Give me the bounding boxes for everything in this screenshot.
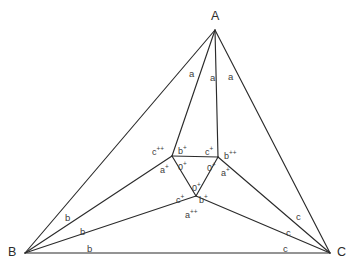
cevian-C-to-bottom-inner	[196, 196, 330, 253]
inner-label-c-plus-upper-right: c+	[205, 146, 213, 157]
inner-label-b-plus-lower-right: b+	[199, 194, 208, 205]
inner-label-b-plus-lower-right-superscript: +	[204, 193, 208, 200]
side-label-b-1: b	[65, 213, 70, 223]
side-label-a-3: a	[228, 72, 233, 82]
inner-label-a-plus-right: a+	[221, 167, 230, 178]
inner-label-a-plus-left-superscript: +	[165, 163, 169, 170]
vertex-label-a: A	[211, 10, 219, 23]
side-AC	[215, 30, 330, 253]
inner-label-zero-plus-upper-left-superscript: +	[183, 160, 187, 167]
side-label-c-2: c	[286, 228, 291, 238]
inner-label-zero-plus-lower-superscript: +	[197, 181, 201, 188]
vertex-label-b: B	[8, 246, 16, 259]
cevian-B-to-bottom-inner	[25, 196, 196, 253]
inner-label-b-double-plus-right: b++	[224, 150, 236, 161]
cevian-B-to-left-inner	[25, 156, 172, 253]
inner-label-a-plus-right-superscript: +	[226, 166, 230, 173]
side-label-b-3: b	[87, 244, 92, 254]
side-label-b-2: b	[80, 227, 85, 237]
inner-label-a-double-plus-bottom-superscript: ++	[190, 208, 197, 215]
inner-label-zero-plus-upper-right-superscript: +	[212, 161, 216, 168]
inner-label-b-plus-upper-left: b+	[178, 145, 187, 156]
side-label-c-1: c	[296, 212, 301, 222]
vertex-label-c: C	[337, 246, 346, 259]
cevian-A-to-left-inner	[172, 30, 215, 156]
inner-label-c-plus-lower-left: c+	[176, 194, 184, 205]
side-label-a-1: a	[189, 69, 194, 79]
inner-label-zero-plus-lower: 0+	[192, 182, 201, 193]
inner-label-c-plus-lower-left-superscript: +	[181, 193, 185, 200]
inner-label-c-double-plus-left: c++	[152, 146, 164, 157]
geometry-diagram: ABCaaabbbcccc++b+c+b++a+0+0+a+0+c+b+a++	[0, 0, 356, 278]
inner-label-b-plus-upper-left-superscript: +	[183, 144, 187, 151]
cevian-A-to-right-inner	[215, 30, 218, 157]
inner-label-c-plus-upper-right-superscript: +	[210, 145, 214, 152]
inner-label-zero-plus-upper-left: 0+	[178, 161, 187, 172]
inner-label-a-double-plus-bottom: a++	[185, 209, 197, 220]
side-label-c-3: c	[283, 244, 288, 254]
segment-layer	[25, 30, 330, 253]
diagram-canvas	[0, 0, 356, 278]
cevian-C-to-right-inner	[218, 157, 330, 253]
inner-label-zero-plus-upper-right: 0+	[207, 162, 216, 173]
inner-label-b-double-plus-right-superscript: ++	[229, 149, 236, 156]
inner-label-a-plus-left: a+	[160, 164, 169, 175]
inner-label-c-double-plus-left-superscript: ++	[157, 145, 164, 152]
side-label-a-2: a	[210, 73, 215, 83]
